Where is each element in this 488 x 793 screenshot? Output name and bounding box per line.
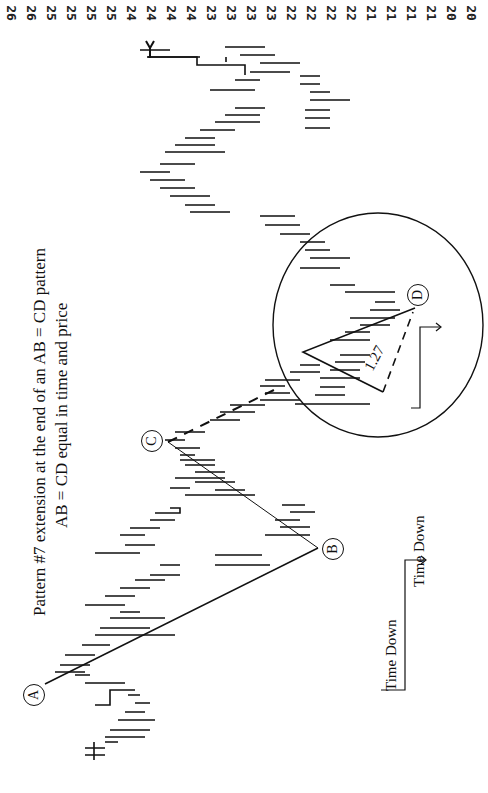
price-chart	[0, 0, 488, 793]
chart-title: Pattern #7 extension at the end of an AB…	[30, 248, 50, 616]
point-c-marker: C	[141, 430, 163, 452]
time-down-label-ab: Time Down	[383, 619, 400, 691]
cd-dashed-line	[168, 388, 278, 442]
point-d-marker: D	[407, 284, 429, 306]
point-b-marker: B	[322, 538, 344, 560]
ab-line	[45, 548, 318, 684]
price-bars	[55, 41, 400, 760]
time-down-label-cd: Time Down	[411, 515, 428, 587]
point-a-marker: A	[23, 684, 45, 706]
chart-subtitle: AB = CD equal in time and price	[52, 303, 72, 528]
